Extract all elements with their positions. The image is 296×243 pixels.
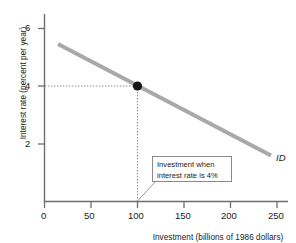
- chart-canvas: [0, 0, 296, 243]
- investment-callout-box: Investment when interest rate is 4%: [152, 156, 232, 182]
- x-tick-label-250: 250: [268, 210, 284, 221]
- callout-leader-line: [138, 181, 156, 201]
- callout-line-1: Investment when: [157, 159, 228, 170]
- x-tick-label-200: 200: [221, 210, 237, 221]
- x-axis-title-wrap: Investment (billions of 1986 dollars): [140, 226, 296, 243]
- callout-line-2: interest rate is 4%: [157, 170, 228, 181]
- y-axis-title: Interest rate (percent per year): [19, 27, 28, 140]
- x-axis-title: Investment (billions of 1986 dollars): [153, 233, 284, 242]
- equilibrium-point-marker: [133, 81, 142, 90]
- x-tick-label-0: 0: [41, 210, 46, 221]
- x-tick-label-50: 50: [84, 210, 95, 221]
- x-tick-label-150: 150: [175, 210, 191, 221]
- investment-demand-curve: [58, 44, 271, 156]
- investment-demand-chart: 6 4 2 0 50 100 150 200 250 Interest rate…: [0, 0, 296, 243]
- curve-label-id: ID: [276, 152, 286, 163]
- x-tick-label-100: 100: [128, 210, 144, 221]
- y-axis-title-wrap: Interest rate (percent per year): [12, 8, 30, 158]
